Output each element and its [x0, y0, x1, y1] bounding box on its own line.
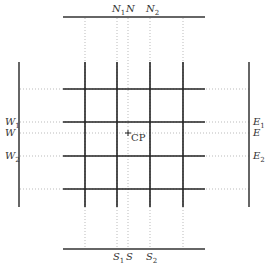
label-w2: W2: [5, 151, 20, 164]
label-n: N: [126, 4, 135, 14]
label-s1: S1: [113, 252, 124, 265]
label-n1: N1: [112, 4, 125, 17]
label-w: W: [5, 128, 15, 138]
label-e2: E2: [253, 151, 265, 164]
label-s2: S2: [146, 252, 157, 265]
label-s: S: [126, 252, 133, 262]
label-e: E: [253, 128, 260, 138]
label-n2: N2: [146, 4, 159, 17]
label-center-point: CP: [131, 133, 145, 143]
